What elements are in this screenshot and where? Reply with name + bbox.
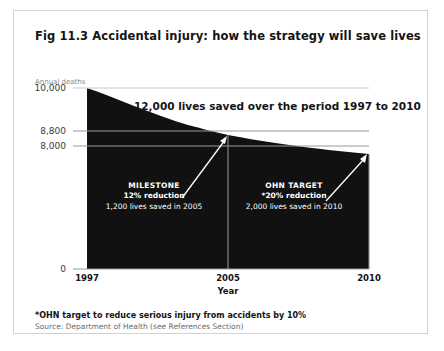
y-tick-8000: 8,000 — [20, 141, 66, 151]
x-axis-label: Year — [198, 286, 258, 296]
x-tick-1997: 1997 — [57, 273, 117, 283]
annotation-milestone-title: MILESTONE — [99, 181, 209, 190]
x-tick-2005: 2005 — [198, 273, 258, 283]
annotation-ohn-target-detail: 2,000 lives saved in 2010 — [224, 202, 364, 211]
annotation-ohn-target-subtitle: *20% reduction — [239, 191, 349, 200]
annotation-headline: 12,000 lives saved over the period 1997 … — [134, 100, 421, 112]
y-tick-8800: 8,800 — [20, 126, 66, 136]
annotation-milestone-subtitle: 12% reduction — [99, 191, 209, 200]
annotation-ohn-target-title: OHN TARGET — [239, 181, 349, 190]
footnote-text: *OHN target to reduce serious injury fro… — [35, 311, 306, 320]
x-tick-2010: 2010 — [339, 273, 399, 283]
y-tick-10000: 10,000 — [20, 83, 66, 93]
annotation-milestone-detail: 1,200 lives saved in 2005 — [84, 202, 224, 211]
figure-frame: Fig 11.3 Accidental injury: how the stra… — [13, 10, 428, 334]
source-text: Source: Department of Health (see Refere… — [35, 322, 243, 331]
chart-plot-area: 10,000 8,800 8,000 0 1997 2005 2010 Year… — [14, 11, 429, 335]
